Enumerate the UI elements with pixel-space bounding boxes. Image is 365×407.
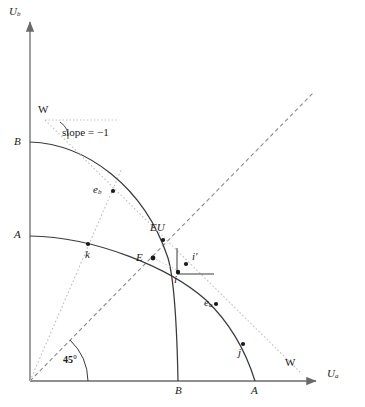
label-b-y-intercept: B [14,136,21,147]
label-w-bottom: W [285,357,295,368]
label-a-y-intercept: A [14,229,21,240]
point-label-EU: EU [150,222,165,233]
point-label-e_b: eb [93,184,101,196]
point-dot-k [86,242,90,246]
point-dot-e_b [111,189,115,193]
point-dot-i-prime [184,262,188,266]
point-dot-EU [161,238,165,242]
point-label-j: j [238,347,241,358]
point-label-e_a: ea [204,297,212,309]
point-dot-E [151,256,156,261]
point-label-E: E [136,252,143,263]
point-label-k: k [85,249,90,260]
outer-frontier-curve-B [30,142,178,381]
diagram-canvas [0,0,365,407]
label-angle-45: 45° [63,355,77,365]
w-tangent-line [45,120,300,372]
label-w-top: W [38,104,48,115]
y-axis-label: Ub [9,6,20,18]
point-dot-j [241,342,245,346]
label-a-x-intercept: A [251,385,258,396]
point-dot-e_a [214,302,218,306]
point-label-i-prime: i′ [192,251,197,262]
label-b-x-intercept: B [175,385,182,396]
label-slope: slope = −1 [62,127,109,138]
k-eb-ray [30,168,122,381]
x-axis-label: Ua [327,368,338,380]
point-label-i: i [174,274,177,285]
